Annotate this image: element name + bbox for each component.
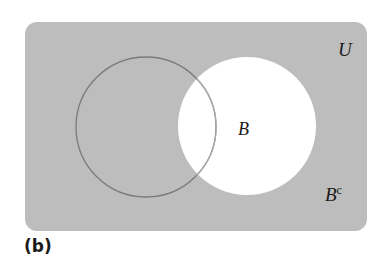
figure-caption: (b) <box>24 236 52 256</box>
complement-superscript: c <box>337 183 342 197</box>
universe-label: U <box>338 39 353 60</box>
set-b-label: B <box>238 119 249 139</box>
venn-diagram: U B Bc <box>0 0 385 276</box>
complement-base: B <box>325 184 337 205</box>
